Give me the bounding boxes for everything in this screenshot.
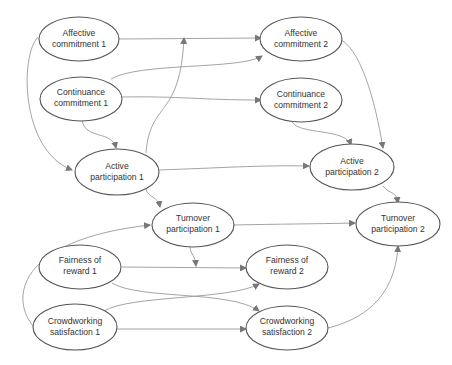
node-crowdworking-satisfaction-2: Crowdworking satisfaction 2 [246, 306, 328, 350]
node-continuance-commitment-1: Continuance commitment 1 [40, 77, 122, 121]
edge-cc1-ap1 [82, 120, 116, 148]
node-turnover-participation-1: Turnover participation 1 [152, 203, 234, 247]
svg-text:Turnover: Turnover [381, 213, 415, 223]
svg-text:commitment 2: commitment 2 [274, 100, 328, 110]
svg-text:Continuance: Continuance [57, 87, 105, 97]
svg-text:Active: Active [105, 161, 129, 171]
svg-text:Affective: Affective [63, 28, 96, 38]
edge-fr1-fr2 [122, 267, 246, 268]
svg-text:satisfaction 1: satisfaction 1 [50, 327, 100, 337]
svg-text:participation 1: participation 1 [166, 224, 220, 234]
svg-text:Crowdworking: Crowdworking [260, 316, 315, 326]
edge-tp1-fr2 [190, 247, 196, 266]
node-affective-commitment-2: Affective commitment 2 [260, 17, 342, 61]
svg-text:Crowdworking: Crowdworking [48, 316, 103, 326]
svg-text:Fairness of: Fairness of [266, 255, 309, 265]
edge-ap1-ap2 [158, 166, 309, 170]
edge-cc1-cc2 [122, 97, 261, 100]
svg-text:Active: Active [340, 156, 364, 166]
node-fairness-of-reward-2: Fairness of reward 2 [246, 245, 328, 289]
svg-text:participation 2: participation 2 [371, 224, 425, 234]
node-fairness-of-reward-1: Fairness of reward 1 [39, 245, 121, 289]
svg-text:participation 2: participation 2 [325, 167, 379, 177]
node-active-participation-2: Active participation 2 [310, 144, 394, 190]
svg-text:satisfaction 2: satisfaction 2 [262, 327, 312, 337]
path-diagram: Affective commitment 1 Affective commitm… [0, 0, 452, 365]
edge-ap1-tp1 [146, 189, 160, 207]
svg-text:commitment 2: commitment 2 [274, 39, 328, 49]
edge-cc1-ac2 [111, 56, 262, 79]
edge-tp1-tp2 [233, 223, 355, 225]
node-continuance-commitment-2: Continuance commitment 2 [260, 78, 342, 122]
edge-ap1-ac2 [146, 38, 184, 153]
svg-text:commitment 1: commitment 1 [54, 98, 108, 108]
node-crowdworking-satisfaction-1: Crowdworking satisfaction 1 [33, 304, 117, 350]
edge-ac1-ac2 [119, 38, 261, 39]
svg-text:reward 1: reward 1 [63, 266, 97, 276]
edge-ap2-tp2 [383, 186, 398, 203]
node-affective-commitment-1: Affective commitment 1 [39, 17, 119, 61]
node-turnover-participation-2: Turnover participation 2 [356, 202, 440, 246]
edge-ac2-ap2 [337, 38, 383, 148]
svg-text:Fairness of: Fairness of [59, 255, 102, 265]
edge-cs2-tp2 [328, 246, 398, 328]
svg-text:participation 1: participation 1 [90, 172, 144, 182]
svg-text:reward 2: reward 2 [270, 266, 304, 276]
edge-cs1-fr2 [104, 284, 259, 311]
node-active-participation-1: Active participation 1 [75, 149, 159, 195]
edge-cc2-ap2 [292, 122, 351, 145]
svg-text:commitment 1: commitment 1 [52, 39, 106, 49]
svg-text:Continuance: Continuance [277, 89, 325, 99]
svg-text:Affective: Affective [285, 28, 318, 38]
svg-text:Turnover: Turnover [176, 213, 210, 223]
